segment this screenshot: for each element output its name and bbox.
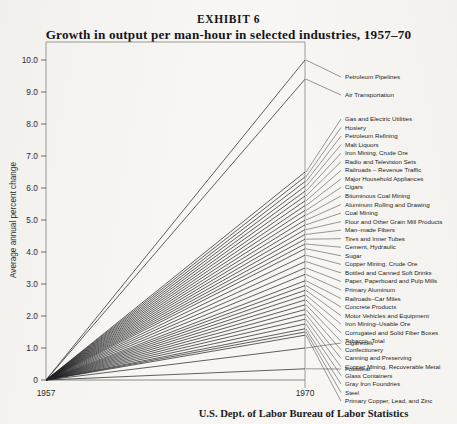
leader-line: [306, 119, 341, 172]
industry-label: Paper, Paperboard and Pulp Mills: [345, 277, 437, 284]
industry-label: Malt Liquors: [345, 141, 379, 148]
industry-label: Cement, Hydraulic: [345, 243, 396, 250]
series-line: [46, 249, 305, 380]
industry-label: Concrete Products: [345, 303, 396, 310]
leader-line: [306, 255, 341, 264]
leader-line: [306, 286, 341, 308]
industry-label: Gray Iron Foundries: [345, 380, 400, 387]
leader-line: [306, 329, 341, 384]
series-line: [46, 172, 305, 380]
industry-label: Cigarettes: [345, 339, 373, 346]
series-line: [46, 295, 305, 380]
industry-label: Petroleum Refining: [345, 132, 398, 139]
leader-line: [306, 305, 341, 342]
industry-label: Footwear: [345, 365, 371, 372]
industry-label: Corrugated and Solid Fiber Boxes: [345, 329, 438, 336]
industry-label: Aluminum Rolling and Drawing: [345, 201, 430, 208]
leader-line: [306, 319, 341, 367]
industry-label: Hosiery: [345, 124, 367, 131]
leader-line: [306, 300, 341, 333]
series-line: [46, 239, 305, 380]
leader-line: [306, 249, 341, 256]
industry-label: Tires and Inner Tubes: [345, 235, 405, 242]
industry-label: Petroleum Pipelines: [345, 73, 400, 80]
leader-line: [306, 268, 341, 281]
y-tick-label: 9.0: [26, 87, 38, 97]
y-tick-label: 4.0: [26, 247, 38, 257]
series-line: [46, 60, 305, 380]
series-line: [46, 262, 305, 380]
series-lines: [46, 60, 305, 380]
leader-line: [306, 332, 341, 393]
industry-label: Radio and Television Sets: [345, 158, 416, 165]
y-tick-label: 7.0: [26, 151, 38, 161]
y-tick-label: 10.0: [22, 55, 39, 65]
leader-line: [306, 274, 341, 290]
axis-ticks: 10.09.08.07.06.05.04.03.02.01.00: [22, 55, 46, 385]
series-line: [46, 281, 305, 380]
y-tick-label: 6.0: [26, 183, 38, 193]
industry-label: Copper Mining, Crude Ore: [345, 260, 418, 267]
y-tick-label: 5.0: [26, 215, 38, 225]
industry-label: Railroads–Car Miles: [345, 295, 401, 302]
leader-line: [306, 60, 341, 77]
series-line: [46, 305, 305, 380]
series-line: [46, 186, 305, 380]
series-line: [46, 234, 305, 380]
industry-label: Railroads – Revenue Traffic: [345, 166, 421, 173]
leader-line: [306, 230, 341, 234]
industry-label: Man–made Fibers: [345, 226, 395, 233]
industry-label: Primary Copper, Lead, and Zinc: [345, 397, 432, 404]
industry-label: Iron Mining, Crude Ore: [345, 149, 408, 156]
industry-label: Air Transportation: [345, 91, 394, 98]
industry-label: Gas and Electric Utilities: [345, 115, 412, 122]
source-note: U.S. Dept. of Labor Bureau of Labor Stat…: [150, 408, 457, 419]
industry-label: Motor Vehicles and Equipment: [345, 312, 429, 319]
industry-label: Cigars: [345, 183, 363, 190]
industry-label: Bottled and Canned Soft Drinks: [345, 269, 432, 276]
series-line: [46, 215, 305, 380]
industry-label: Flour and Other Grain Mill Products: [345, 218, 442, 225]
industry-label: Confectionery: [345, 346, 384, 353]
industry-label: Bituminous Coal Mining: [345, 192, 411, 199]
industry-label: Steel: [345, 389, 359, 396]
leader-line: [306, 290, 341, 315]
industry-label: Sugar: [345, 252, 362, 259]
series-line: [46, 310, 305, 380]
industry-label: Iron Mining–Usable Ore: [345, 320, 411, 327]
industry-label: Glass Containers: [345, 372, 392, 379]
x-tick-label: 1970: [296, 388, 315, 398]
y-tick-label: 3.0: [26, 279, 38, 289]
y-tick-label: 0: [33, 375, 38, 385]
leader-lines: [306, 60, 341, 401]
chart-page: EXHIBIT 6 Growth in output per man-hour …: [0, 0, 457, 424]
industry-labels: Petroleum PipelinesAir TransportationGas…: [345, 73, 442, 404]
x-tick-label: 1957: [37, 388, 56, 398]
line-chart: 10.09.08.07.06.05.04.03.02.01.00 Petrole…: [0, 0, 457, 424]
leader-line: [306, 281, 341, 299]
leader-line: [306, 239, 341, 240]
leader-line: [306, 262, 341, 273]
series-line: [46, 196, 305, 380]
leader-line: [306, 145, 341, 187]
industry-label: Primary Aluminum: [345, 286, 395, 293]
y-tick-label: 2.0: [26, 311, 38, 321]
industry-label: Major Household Appliances: [345, 175, 423, 182]
axis-labels: 19571970Average annual percent change: [9, 162, 315, 398]
leader-line: [306, 244, 341, 247]
leader-line: [306, 295, 341, 324]
leader-line: [306, 128, 341, 177]
series-line: [46, 182, 305, 380]
y-axis-title: Average annual percent change: [9, 162, 18, 278]
industry-label: Coal Mining: [345, 209, 378, 216]
industry-label: Canning and Preserving: [345, 354, 412, 361]
leader-line: [306, 79, 341, 95]
leader-line: [306, 179, 341, 206]
leader-line: [306, 314, 341, 358]
series-line: [46, 255, 305, 380]
series-line: [46, 225, 305, 380]
y-tick-label: 1.0: [26, 343, 38, 353]
y-tick-label: 8.0: [26, 119, 38, 129]
series-line: [46, 206, 305, 380]
